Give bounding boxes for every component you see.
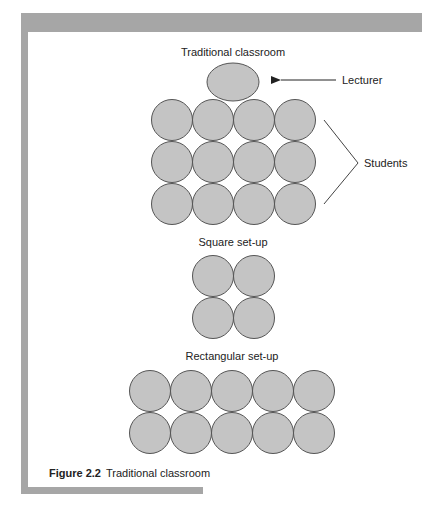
figure-caption: Figure 2.2Traditional classroom [49, 467, 210, 479]
figure-caption-text: Traditional classroom [106, 467, 210, 479]
classroom-diagram: Traditional classroom Lecturer Students … [0, 0, 440, 510]
rectangular-layout [130, 371, 335, 454]
lecturer-label: Lecturer [342, 74, 383, 86]
lecturer-ellipse [207, 63, 259, 101]
rectangular-title: Rectangular set-up [186, 350, 279, 362]
students-bracket [324, 120, 358, 204]
square-title: Square set-up [198, 236, 267, 248]
student-circles [152, 100, 316, 225]
traditional-title: Traditional classroom [181, 46, 285, 58]
students-label: Students [364, 157, 408, 169]
traditional-layout [152, 63, 316, 225]
figure-number: Figure 2.2 [49, 467, 101, 479]
square-layout [193, 256, 275, 339]
